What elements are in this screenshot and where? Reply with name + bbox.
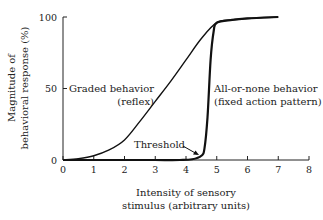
label-line: All-or-none behavior (213, 83, 318, 94)
label-line: Graded behavior (69, 83, 154, 94)
label-line: (reflex) (117, 96, 154, 107)
x-tick-label: 5 (214, 164, 220, 175)
x-tick-label: 8 (306, 164, 312, 175)
x-tick-label: 3 (152, 164, 158, 175)
chart: 012345678050100 Graded behavior(reflex)A… (0, 0, 323, 220)
x-axis-title: Intensity of sensorystimulus (arbitrary … (122, 187, 250, 211)
threshold-label: Threshold (134, 139, 186, 150)
x-tick-label: 6 (244, 164, 250, 175)
x-tick-label: 7 (275, 164, 281, 175)
y-tick-label: 0 (51, 155, 57, 166)
x-tick-label: 2 (121, 164, 127, 175)
y-tick-label: 100 (39, 12, 57, 23)
x-tick-label: 4 (183, 164, 189, 175)
all-or-none-label: All-or-none behavior(fixed action patter… (213, 83, 322, 107)
labels: Graded behavior(reflex)All-or-none behav… (6, 26, 322, 211)
y-tick-label: 50 (45, 83, 57, 94)
x-tick-label: 1 (91, 164, 97, 175)
label-line: stimulus (arbitrary units) (122, 200, 250, 211)
label-line: Intensity of sensory (136, 187, 236, 198)
label-line: Magnitude of (6, 53, 17, 122)
y-axis-title: Magnitude ofbehavioral response (%) (6, 26, 30, 149)
label-line: (fixed action pattern) (214, 96, 322, 107)
graded-behavior-label: Graded behavior(reflex) (69, 83, 154, 107)
label-line: behavioral response (%) (19, 26, 30, 149)
x-tick-label: 0 (60, 164, 66, 175)
